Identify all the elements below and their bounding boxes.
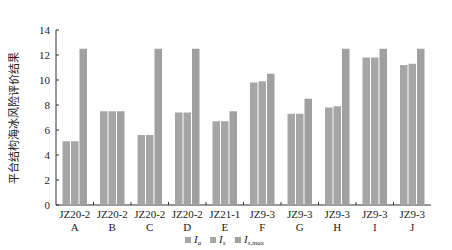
x-tick-sublabel: B [109, 221, 116, 233]
legend-swatch [235, 237, 241, 243]
bar [288, 114, 296, 205]
x-tick-sublabel: G [296, 221, 304, 233]
bar [109, 111, 117, 205]
legend-label: Ia [193, 233, 202, 247]
bar [371, 58, 379, 206]
y-tick-label: 2 [45, 174, 51, 186]
x-tick-sublabel: I [373, 221, 377, 233]
bar [213, 121, 221, 205]
x-tick-label: JZ20-2 [134, 208, 165, 220]
bar [80, 49, 88, 205]
bar [363, 58, 371, 206]
y-axis-label: 平台结构海冰风险评价结果 [7, 52, 20, 184]
x-tick-sublabel: D [183, 221, 191, 233]
bar [221, 121, 229, 205]
bar [409, 64, 417, 205]
x-tick-label: JZ20-2 [172, 208, 203, 220]
bar [100, 111, 108, 205]
y-tick-label: 8 [45, 99, 51, 111]
x-tick-sublabel: E [221, 221, 228, 233]
bar [175, 113, 183, 206]
bar [296, 114, 304, 205]
bar [192, 49, 200, 205]
legend-label: Is,max [243, 233, 265, 247]
bar [380, 49, 388, 205]
bar [400, 65, 408, 205]
y-tick-label: 14 [39, 24, 51, 36]
bar [71, 141, 79, 205]
x-tick-label: JZ9-3 [324, 208, 350, 220]
bar [267, 74, 275, 205]
x-tick-label: JZ21-1 [209, 208, 240, 220]
y-tick-label: 0 [45, 199, 51, 211]
x-tick-sublabel: C [146, 221, 153, 233]
bar [250, 83, 258, 206]
y-tick-label: 12 [39, 49, 50, 61]
x-tick-label: JZ20-2 [97, 208, 128, 220]
x-tick-label: JZ9-3 [362, 208, 388, 220]
x-tick-label: JZ9-3 [287, 208, 313, 220]
bar [230, 111, 238, 205]
y-tick-label: 10 [39, 74, 51, 86]
bar [417, 49, 425, 205]
bar [184, 113, 192, 206]
bar [146, 135, 154, 205]
x-tick-label: JZ9-3 [249, 208, 275, 220]
bar [63, 141, 71, 205]
bar [342, 49, 350, 205]
x-tick-sublabel: A [71, 221, 79, 233]
bar [305, 99, 313, 205]
y-tick-label: 6 [45, 124, 51, 136]
bar-chart: 02468101214平台结构海冰风险评价结果JZ20-2AJZ20-2BJZ2… [0, 0, 452, 250]
x-tick-sublabel: J [410, 221, 415, 233]
legend-swatch [185, 237, 191, 243]
x-tick-sublabel: F [259, 221, 265, 233]
y-tick-label: 4 [45, 149, 51, 161]
legend-swatch [210, 237, 216, 243]
bar [334, 106, 342, 205]
bar [155, 49, 163, 205]
x-tick-label: JZ9-3 [399, 208, 425, 220]
bar [117, 111, 125, 205]
bar [259, 81, 267, 205]
x-tick-sublabel: H [333, 221, 341, 233]
bar [138, 135, 146, 205]
x-tick-label: JZ20-2 [59, 208, 90, 220]
legend-label: Is [218, 233, 226, 247]
bar [325, 108, 333, 206]
